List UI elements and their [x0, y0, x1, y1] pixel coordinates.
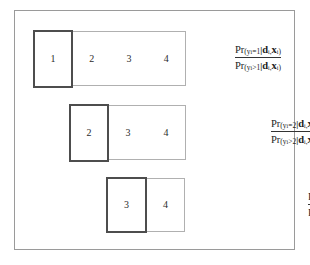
odds-ratio-formula: Pr(yi=2|di,xi) Pr(yi>2|di,xi)	[245, 118, 310, 147]
pr-operator: Pr	[308, 207, 310, 218]
remaining-category-cell: 4	[147, 128, 185, 138]
remaining-categories-box: 3 4	[108, 105, 186, 160]
category-label: 3	[124, 200, 129, 210]
current-category-box: 1	[33, 30, 73, 88]
fraction: Pr(yi=2|di,xi) Pr(yi>2|di,xi)	[271, 118, 310, 146]
odds-ratio-formula: Pr(yi=1|di,xi) Pr(yi>1|di,xi)	[209, 44, 307, 73]
fraction-bar	[235, 57, 281, 58]
pr-operator: Pr	[271, 118, 280, 129]
category-label: 2	[89, 54, 94, 64]
figure-frame: 1 2 3 4 Pr(yi=1|di,xi)	[14, 10, 295, 250]
remaining-category-cell: 4	[148, 54, 185, 64]
category-label: 4	[164, 128, 169, 138]
fraction: Pr(yi=3|di,xi) Pr(yi>3|di,xi)	[308, 191, 310, 219]
remaining-category-cell: 2	[73, 54, 110, 64]
category-label: 3	[126, 54, 131, 64]
fraction-numerator: Pr(yi=2|di,xi)	[271, 118, 310, 131]
category-label: 4	[163, 200, 168, 210]
fraction-numerator: Pr(yi=1|di,xi)	[235, 44, 281, 57]
conditioning-vector-x: x	[308, 118, 310, 129]
fraction-denominator: Pr(yi>2|di,xi)	[271, 133, 310, 146]
current-category-box: 2	[69, 104, 109, 162]
close-paren: )	[279, 47, 282, 56]
pr-operator: Pr	[235, 44, 244, 55]
fraction: Pr(yi=1|di,xi) Pr(yi>1|di,xi)	[235, 44, 281, 72]
fraction-numerator: Pr(yi=3|di,xi)	[308, 191, 310, 204]
sequential-step-row: 1 2 3 4 Pr(yi=1|di,xi)	[33, 30, 273, 90]
sequential-step-row: 2 3 4 Pr(yi=2|di,xi) Pr(yi>2|di,xi)	[69, 104, 309, 164]
category-label: 3	[126, 128, 131, 138]
category-label: 2	[87, 128, 92, 138]
fraction-bar	[308, 204, 310, 205]
remaining-category-cell: 3	[109, 128, 147, 138]
pr-operator: Pr	[271, 134, 280, 145]
remaining-category-cell: 4	[147, 200, 184, 210]
pr-operator: Pr	[308, 191, 310, 202]
remaining-categories-box: 4	[146, 178, 185, 232]
current-category-box: 3	[106, 177, 147, 233]
fraction-denominator: Pr(yi>1|di,xi)	[235, 59, 281, 72]
pr-operator: Pr	[235, 60, 244, 71]
category-label: 1	[51, 54, 56, 64]
fraction-denominator: Pr(yi>3|di,xi)	[308, 206, 310, 219]
odds-ratio-formula: Pr(yi=3|di,xi) Pr(yi>3|di,xi)	[282, 191, 310, 220]
fraction-bar	[271, 131, 310, 132]
remaining-categories-box: 2 3 4	[72, 31, 186, 86]
conditioning-vector-x: x	[308, 134, 310, 145]
sequential-step-row: 3 4 Pr(yi=3|di,xi) Pr(yi>3|di,xi)	[106, 177, 310, 237]
remaining-category-cell: 3	[110, 54, 147, 64]
close-paren: )	[279, 64, 282, 73]
category-label: 4	[164, 54, 169, 64]
